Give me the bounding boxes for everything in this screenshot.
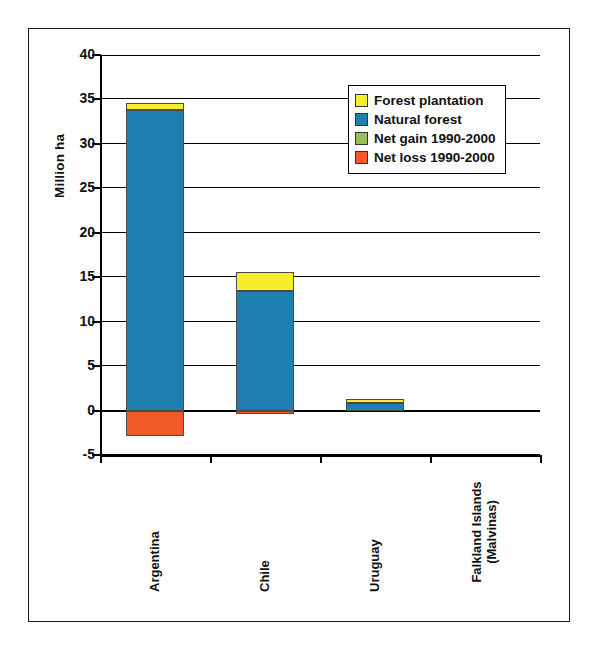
x-tick xyxy=(100,455,102,463)
legend-swatch-icon xyxy=(355,132,368,145)
legend-item: Net loss 1990-2000 xyxy=(355,148,496,167)
legend-label: Natural forest xyxy=(374,113,462,127)
legend-swatch-icon xyxy=(355,94,368,107)
x-category-label-1: Chile xyxy=(258,472,273,592)
bar-segment xyxy=(346,399,404,403)
legend-swatch-icon xyxy=(355,113,368,126)
bar-segment xyxy=(126,411,184,437)
y-tick-label-0: 0 xyxy=(35,403,95,417)
y-tick-label-25: 25 xyxy=(35,180,95,194)
x-tick xyxy=(320,455,322,463)
bar-segment xyxy=(346,403,404,410)
legend-label: Net gain 1990-2000 xyxy=(374,132,496,146)
legend-item: Net gain 1990-2000 xyxy=(355,129,496,148)
bar-segment xyxy=(126,103,184,110)
y-tick-label-30: 30 xyxy=(35,136,95,150)
x-tick xyxy=(210,455,212,463)
bar-segment xyxy=(236,272,294,292)
bar-segment xyxy=(126,110,184,410)
y-tick-label-10: 10 xyxy=(35,314,95,328)
x-tick xyxy=(540,455,542,463)
y-tick-label-20: 20 xyxy=(35,225,95,239)
bar-segment xyxy=(236,411,294,414)
x-tick xyxy=(430,455,432,463)
legend-label: Net loss 1990-2000 xyxy=(374,151,495,165)
chart-legend: Forest plantationNatural forestNet gain … xyxy=(348,85,506,174)
y-tick-label-40: 40 xyxy=(35,47,95,61)
x-category-label-3: Falkland Islands(Malvinas) xyxy=(470,472,499,592)
y-tick-label-35: 35 xyxy=(35,91,95,105)
x-category-label-2: Uruguay xyxy=(368,472,383,592)
forest-area-stacked-bar-chart: Million ha 4035302520151050-5 ArgentinaC… xyxy=(0,0,594,649)
y-tick-label-5: 5 xyxy=(35,358,95,372)
legend-swatch-icon xyxy=(355,151,368,164)
legend-label: Forest plantation xyxy=(374,94,484,108)
y-tick-label--5: -5 xyxy=(35,447,95,461)
x-category-label-0: Argentina xyxy=(148,472,163,592)
legend-item: Natural forest xyxy=(355,110,496,129)
y-tick-label-15: 15 xyxy=(35,269,95,283)
bar-segment xyxy=(236,291,294,410)
legend-item: Forest plantation xyxy=(355,91,496,110)
